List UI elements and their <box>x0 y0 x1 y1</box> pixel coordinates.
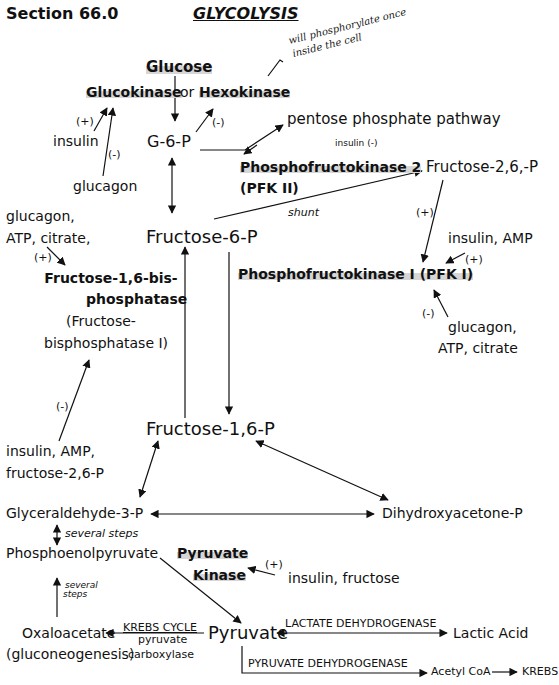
node-phosphoenolpyruvate: Phosphoenolpyruvate <box>6 545 158 561</box>
enzyme-pyruvate-kinase-line1: Pyruvate <box>177 545 248 561</box>
node-fructose-2-6-p: Fructose-2,6,-P <box>426 158 538 176</box>
pyruvate-carboxylase-line2: carboxylase <box>128 648 194 661</box>
or-label: or <box>180 84 194 100</box>
enzyme-fbpase-line3: (Fructose- <box>66 313 136 329</box>
node-oxaloacetate: Oxaloacetate <box>22 625 115 641</box>
reg-fbp-inh-line1: insulin, AMP, <box>6 443 95 459</box>
node-krebs: KREBS <box>522 665 558 678</box>
enzyme-fbpase-line4: bisphosphatase I) <box>44 335 168 351</box>
page-title: GLYCOLYSIS <box>193 4 298 23</box>
reg-pk-plus: (+) <box>265 558 283 571</box>
reg-gk-insulin: insulin <box>53 133 99 149</box>
reg-pfk2-insulin: insulin (-) <box>335 138 377 148</box>
reg-fbp-act-line1: glucagon, <box>6 208 75 224</box>
reg-fbp-minus: (-) <box>56 400 69 413</box>
reg-pfk1-inh-line1: glucagon, <box>448 319 517 335</box>
enzyme-pfk2: Phosphofructokinase 2 <box>240 159 421 175</box>
node-g6p: G-6-P <box>147 132 191 151</box>
shunt-label: shunt <box>288 206 319 219</box>
reg-pfk1-minus: (-) <box>422 307 435 320</box>
reg-fbp-inh-line2: fructose-2,6-P <box>6 465 104 481</box>
pyruvate-carboxylase-line1: pyruvate <box>138 633 187 646</box>
node-lactic-acid: Lactic Acid <box>453 625 528 641</box>
enzyme-fbpase-line2: phosphatase <box>86 291 187 307</box>
several-steps-label-2b: steps <box>63 590 87 599</box>
enzyme-lactate-dehydrogenase: LACTATE DEHYDROGENASE <box>285 617 436 630</box>
node-fructose-6-p: Fructose-6-P <box>146 226 258 247</box>
node-glyceraldehyde-3-p: Glyceraldehyde-3-P <box>6 505 143 521</box>
enzyme-hexokinase: Hexokinase <box>199 84 290 100</box>
enzyme-pfk2-abbrev: (PFK II) <box>240 180 299 196</box>
reg-f26p-plus: (+) <box>416 206 434 219</box>
reg-fbp-plus: (+) <box>34 251 52 264</box>
reg-fbp-act-line2: ATP, citrate, <box>6 230 90 246</box>
reg-pfk1-activators: insulin, AMP <box>448 230 533 246</box>
reg-pfk1-plus: (+) <box>465 253 483 266</box>
enzyme-glucokinase: Glucokinase <box>86 84 182 100</box>
reg-pk-activators: insulin, fructose <box>288 570 400 586</box>
reg-pfk1-inh-line2: ATP, citrate <box>438 340 518 356</box>
node-dihydroxyacetone-p: Dihydroxyacetone-P <box>382 505 523 521</box>
reg-hk-minus: (-) <box>212 116 225 129</box>
enzyme-pfk1: Phosphofructokinase I (PFK I) <box>238 266 473 282</box>
enzyme-fbpase-line1: Fructose-1,6-bis- <box>36 270 186 286</box>
node-fructose-1-6-p: Fructose-1,6-P <box>146 418 275 439</box>
node-pentose-phosphate-pathway: pentose phosphate pathway <box>287 110 501 128</box>
reg-gk-plus: (+) <box>76 115 94 128</box>
section-label: Section 66.0 <box>6 4 118 23</box>
gluconeogenesis-label: (gluconeogenesis) <box>6 646 134 662</box>
enzyme-pyruvate-dehydrogenase: PYRUVATE DEHYDROGENASE <box>248 657 408 670</box>
several-steps-label-1: several steps <box>65 527 138 540</box>
reg-gk-minus: (-) <box>108 148 121 161</box>
reg-gk-glucagon: glucagon <box>73 178 137 194</box>
node-pyruvate: Pyruvate <box>208 622 288 643</box>
node-acetyl-coa: Acetyl CoA <box>431 665 490 678</box>
node-glucose: Glucose <box>146 58 212 76</box>
enzyme-pyruvate-kinase-line2: Kinase <box>193 567 246 583</box>
